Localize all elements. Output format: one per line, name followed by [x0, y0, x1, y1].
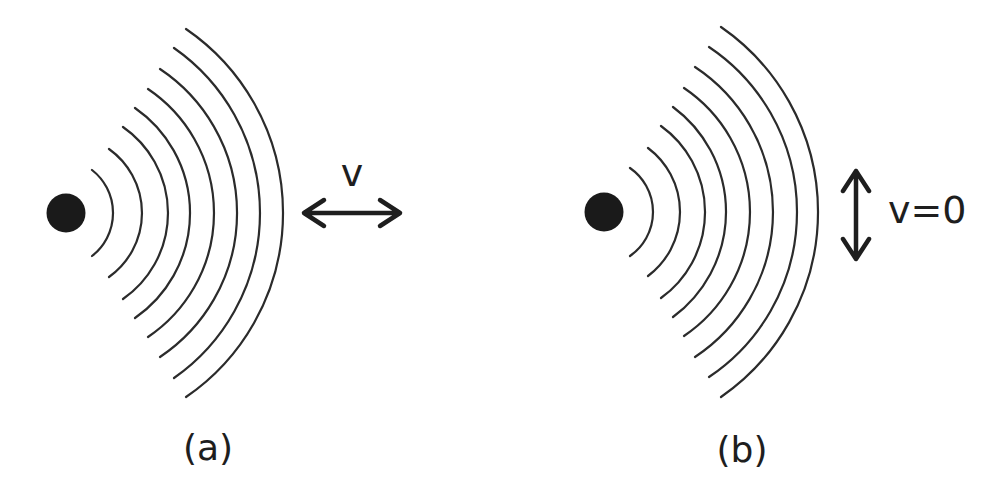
wavefront-arcs: [630, 27, 818, 397]
wavefront-arc: [92, 170, 113, 256]
panel-caption-b: (b): [717, 429, 768, 470]
double-headed-vertical-arrow-icon: [843, 171, 869, 259]
wavefront-arc: [661, 126, 705, 298]
wavefront-arcs: [92, 29, 283, 397]
wavefront-arc: [186, 29, 283, 397]
wavefront-arc: [695, 67, 773, 357]
panel-b-stationary-source: v=0 (b): [585, 27, 967, 470]
panel-a-moving-source: v (a): [47, 29, 401, 468]
arrow-shape: [304, 200, 400, 226]
doppler-wavefront-diagram: v (a) v=0 (b): [0, 0, 999, 491]
panel-caption-a: (a): [183, 427, 233, 468]
wavefront-arc: [148, 89, 214, 337]
double-headed-horizontal-arrow-icon: [304, 200, 400, 226]
arrow-shape: [843, 171, 869, 259]
wavefront-arc: [160, 69, 237, 357]
wave-source-dot: [47, 194, 86, 233]
wavefront-arc: [709, 47, 797, 377]
wavefront-arc: [174, 48, 260, 378]
wavefront-arc: [123, 127, 168, 299]
velocity-label: v: [341, 151, 364, 195]
wavefront-arc: [630, 168, 653, 256]
wavefront-arc: [721, 27, 818, 397]
velocity-label: v=0: [888, 188, 967, 232]
wave-source-dot: [585, 193, 624, 232]
wavefront-arc: [135, 108, 190, 318]
